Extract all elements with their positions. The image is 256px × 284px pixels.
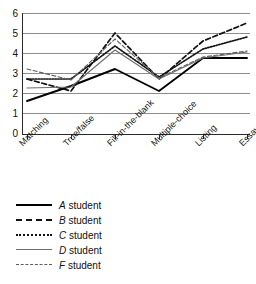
chart-legend: A student B student C student D student … [16, 198, 176, 273]
legend-item-c-student: C student [16, 228, 176, 243]
legend-item-d-student: D student [16, 243, 176, 258]
y-tick-label: 1 [2, 109, 18, 119]
legend-item-a-student: A student [16, 198, 176, 213]
y-tick-label: 0 [2, 129, 18, 139]
legend-label: A student [59, 198, 101, 213]
y-tick-label: 4 [2, 49, 18, 59]
chart-series-layer [22, 0, 252, 145]
legend-key-line-icon [16, 234, 52, 239]
x-axis-labels: MatchingTrue/falseFill-in-the-blankMulti… [22, 137, 256, 195]
chart-plot-area: 6 5 4 3 2 1 0 MatchingTrue/falseFill [0, 0, 256, 145]
legend-label: C student [59, 228, 102, 243]
y-tick-label: 5 [2, 29, 18, 39]
legend-key-line-icon [16, 264, 52, 268]
legend-label: B student [59, 213, 101, 228]
legend-key-line-icon [16, 204, 52, 209]
legend-key-line-icon [16, 249, 52, 253]
legend-item-b-student: B student [16, 213, 176, 228]
y-tick-label: 2 [2, 89, 18, 99]
figure: 6 5 4 3 2 1 0 MatchingTrue/falseFill [0, 0, 256, 284]
chart-axes [22, 0, 252, 145]
y-tick-label: 6 [2, 9, 18, 19]
y-axis-labels: 6 5 4 3 2 1 0 [0, 0, 22, 145]
legend-item-f-student: F student [16, 258, 176, 273]
legend-label: D student [59, 243, 102, 258]
legend-key-line-icon [16, 219, 52, 224]
y-tick-label: 3 [2, 69, 18, 79]
legend-label: F student [59, 258, 101, 273]
